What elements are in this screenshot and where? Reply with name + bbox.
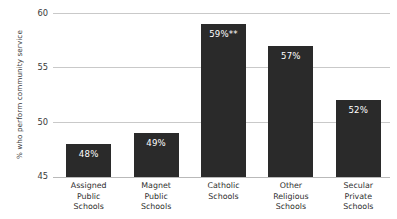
- x-tick-label-line: Catholic: [189, 181, 258, 192]
- x-tick-label-magnet-public-schools: MagnetPublicSchools: [122, 181, 191, 213]
- x-tick-label-line: Secular: [324, 181, 393, 192]
- x-tick-label-line: Schools: [189, 192, 258, 203]
- x-tick-label-secular-private-schools: SecularPrivateSchools: [324, 181, 393, 213]
- x-tick-label-line: Public: [54, 192, 123, 203]
- bar-value-label: 57%: [268, 51, 313, 61]
- bar-value-label: 59%**: [201, 29, 246, 39]
- x-tick-label-line: Public: [122, 192, 191, 203]
- y-tick-label-60: 60: [26, 9, 48, 17]
- x-tick-label-line: Schools: [256, 202, 325, 213]
- bar-secular-private-schools[interactable]: 52%: [336, 100, 381, 177]
- bar-assigned-public-schools[interactable]: 48%: [66, 144, 111, 177]
- y-axis-title: % who perform community service: [15, 10, 24, 180]
- x-tick-label-line: Religious: [256, 192, 325, 203]
- bar-magnet-public-schools[interactable]: 49%: [134, 133, 179, 177]
- x-tick-label-line: Private: [324, 192, 393, 203]
- y-tick-label-45: 45: [26, 172, 48, 180]
- bar-value-label: 48%: [66, 149, 111, 159]
- bar-catholic-schools[interactable]: 59%**: [201, 24, 246, 177]
- x-tick-label-catholic-schools: CatholicSchools: [189, 181, 258, 202]
- y-tick-label-55: 55: [26, 63, 48, 71]
- x-tick-label-other-religious-schools: OtherReligiousSchools: [256, 181, 325, 213]
- bar-value-label: 52%: [336, 105, 381, 115]
- x-tick-label-line: Schools: [54, 202, 123, 213]
- bar-value-label: 49%: [134, 138, 179, 148]
- x-tick-label-assigned-public-schools: AssignedPublicSchools: [54, 181, 123, 213]
- x-tick-label-line: Magnet: [122, 181, 191, 192]
- x-tick-label-line: Other: [256, 181, 325, 192]
- bar-chart: % who perform community service 60 55 50…: [0, 0, 397, 219]
- plot-area: 48% 49% 59%** 57% 52%: [53, 13, 390, 177]
- bar-other-religious-schools[interactable]: 57%: [268, 46, 313, 177]
- axis-baseline-45: [53, 177, 390, 178]
- y-tick-label-50: 50: [26, 118, 48, 126]
- x-tick-label-line: Schools: [324, 202, 393, 213]
- x-tick-label-line: Assigned: [54, 181, 123, 192]
- x-tick-label-line: Schools: [122, 202, 191, 213]
